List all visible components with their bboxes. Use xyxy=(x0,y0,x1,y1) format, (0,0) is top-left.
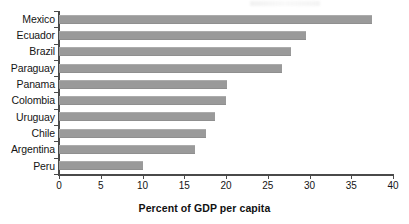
bar-chart: MexicoEcuadorBrazilParaguayPanamaColombi… xyxy=(0,0,409,224)
bar-mexico xyxy=(59,15,372,24)
category-label-argentina: Argentina xyxy=(0,141,55,157)
bar-row xyxy=(59,158,393,174)
y-axis-tick xyxy=(54,60,59,61)
x-axis-tick-label: 40 xyxy=(387,179,398,193)
bar-paraguay xyxy=(59,64,282,73)
x-axis-tick-label: 30 xyxy=(304,179,315,193)
x-axis-tick-label: 25 xyxy=(262,179,273,193)
x-axis-tick-label: 20 xyxy=(220,179,231,193)
x-axis-tick-label: 35 xyxy=(346,179,357,193)
y-axis-tick xyxy=(54,92,59,93)
bar-chile xyxy=(59,129,206,138)
bar-row xyxy=(59,125,393,141)
bar-row xyxy=(59,27,393,43)
x-axis-tick-label: 15 xyxy=(179,179,190,193)
x-axis-tick-label: 10 xyxy=(137,179,148,193)
bar-brazil xyxy=(59,47,291,56)
category-label-panama: Panama xyxy=(0,76,55,92)
category-label-ecuador: Ecuador xyxy=(0,27,55,43)
cropped-title-remnant xyxy=(250,1,320,6)
bar-row xyxy=(59,11,393,27)
y-axis-tick xyxy=(54,76,59,77)
y-axis-tick xyxy=(54,158,59,159)
bar-row xyxy=(59,141,393,157)
bar-peru xyxy=(59,161,143,170)
bar-argentina xyxy=(59,145,195,154)
category-label-paraguay: Paraguay xyxy=(0,60,55,76)
plot-area: 0510152025303540 xyxy=(59,11,393,174)
category-label-peru: Peru xyxy=(0,158,55,174)
bar-row xyxy=(59,109,393,125)
category-label-chile: Chile xyxy=(0,125,55,141)
y-axis-tick xyxy=(54,11,59,12)
bar-panama xyxy=(59,80,227,89)
bar-row xyxy=(59,76,393,92)
category-axis-labels: MexicoEcuadorBrazilParaguayPanamaColombi… xyxy=(0,11,55,174)
bar-ecuador xyxy=(59,31,306,40)
category-label-brazil: Brazil xyxy=(0,44,55,60)
bar-rows xyxy=(59,11,393,174)
x-axis-tick-labels: 0510152025303540 xyxy=(59,179,393,193)
bar-colombia xyxy=(59,96,226,105)
x-axis-tick-label: 5 xyxy=(98,179,104,193)
y-axis-tick xyxy=(54,125,59,126)
x-axis-tick-label: 0 xyxy=(56,179,62,193)
y-axis-tick xyxy=(54,109,59,110)
y-axis-tick xyxy=(54,141,59,142)
category-label-colombia: Colombia xyxy=(0,92,55,108)
y-axis-tick xyxy=(54,44,59,45)
bar-row xyxy=(59,60,393,76)
bar-row xyxy=(59,92,393,108)
bar-row xyxy=(59,44,393,60)
x-axis-title: Percent of GDP per capita xyxy=(0,202,409,214)
category-label-mexico: Mexico xyxy=(0,11,55,27)
y-axis-tick xyxy=(54,27,59,28)
bar-uruguay xyxy=(59,112,215,121)
category-label-uruguay: Uruguay xyxy=(0,109,55,125)
